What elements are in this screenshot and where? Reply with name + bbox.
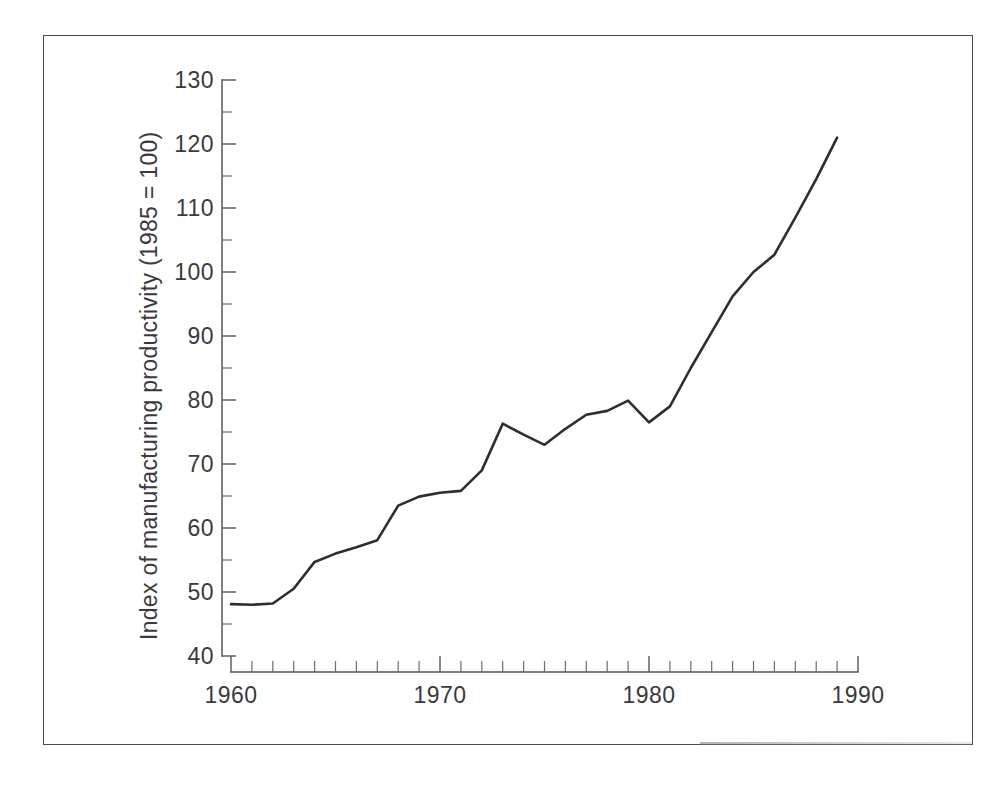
y-tick-label: 50: [187, 579, 214, 605]
data-series-line: [231, 138, 837, 605]
x-axis-ticks: [231, 656, 858, 672]
y-axis: [222, 80, 236, 656]
x-tick-label: 1990: [831, 682, 884, 708]
y-tick-label: 60: [187, 515, 214, 541]
y-tick-label: 100: [174, 259, 214, 285]
line-chart: 405060708090100110120130 196019701980199…: [0, 0, 1008, 786]
x-axis: [231, 656, 858, 672]
y-tick-label: 130: [174, 67, 214, 93]
x-tick-label: 1970: [413, 682, 466, 708]
y-tick-label: 90: [187, 323, 214, 349]
y-tick-label: 80: [187, 387, 214, 413]
y-axis-ticks: [222, 80, 236, 656]
chart-page: 405060708090100110120130 196019701980199…: [0, 0, 1008, 786]
y-axis-title: Index of manufacturing productivity (198…: [136, 131, 162, 640]
y-tick-label: 70: [187, 451, 214, 477]
y-axis-tick-labels: 405060708090100110120130: [174, 67, 214, 669]
y-tick-label: 40: [187, 643, 214, 669]
x-axis-tick-labels: 1960197019801990: [204, 682, 884, 708]
y-tick-label: 110: [176, 195, 214, 221]
x-tick-label: 1960: [204, 682, 257, 708]
x-tick-label: 1980: [622, 682, 675, 708]
y-tick-label: 120: [174, 131, 214, 157]
